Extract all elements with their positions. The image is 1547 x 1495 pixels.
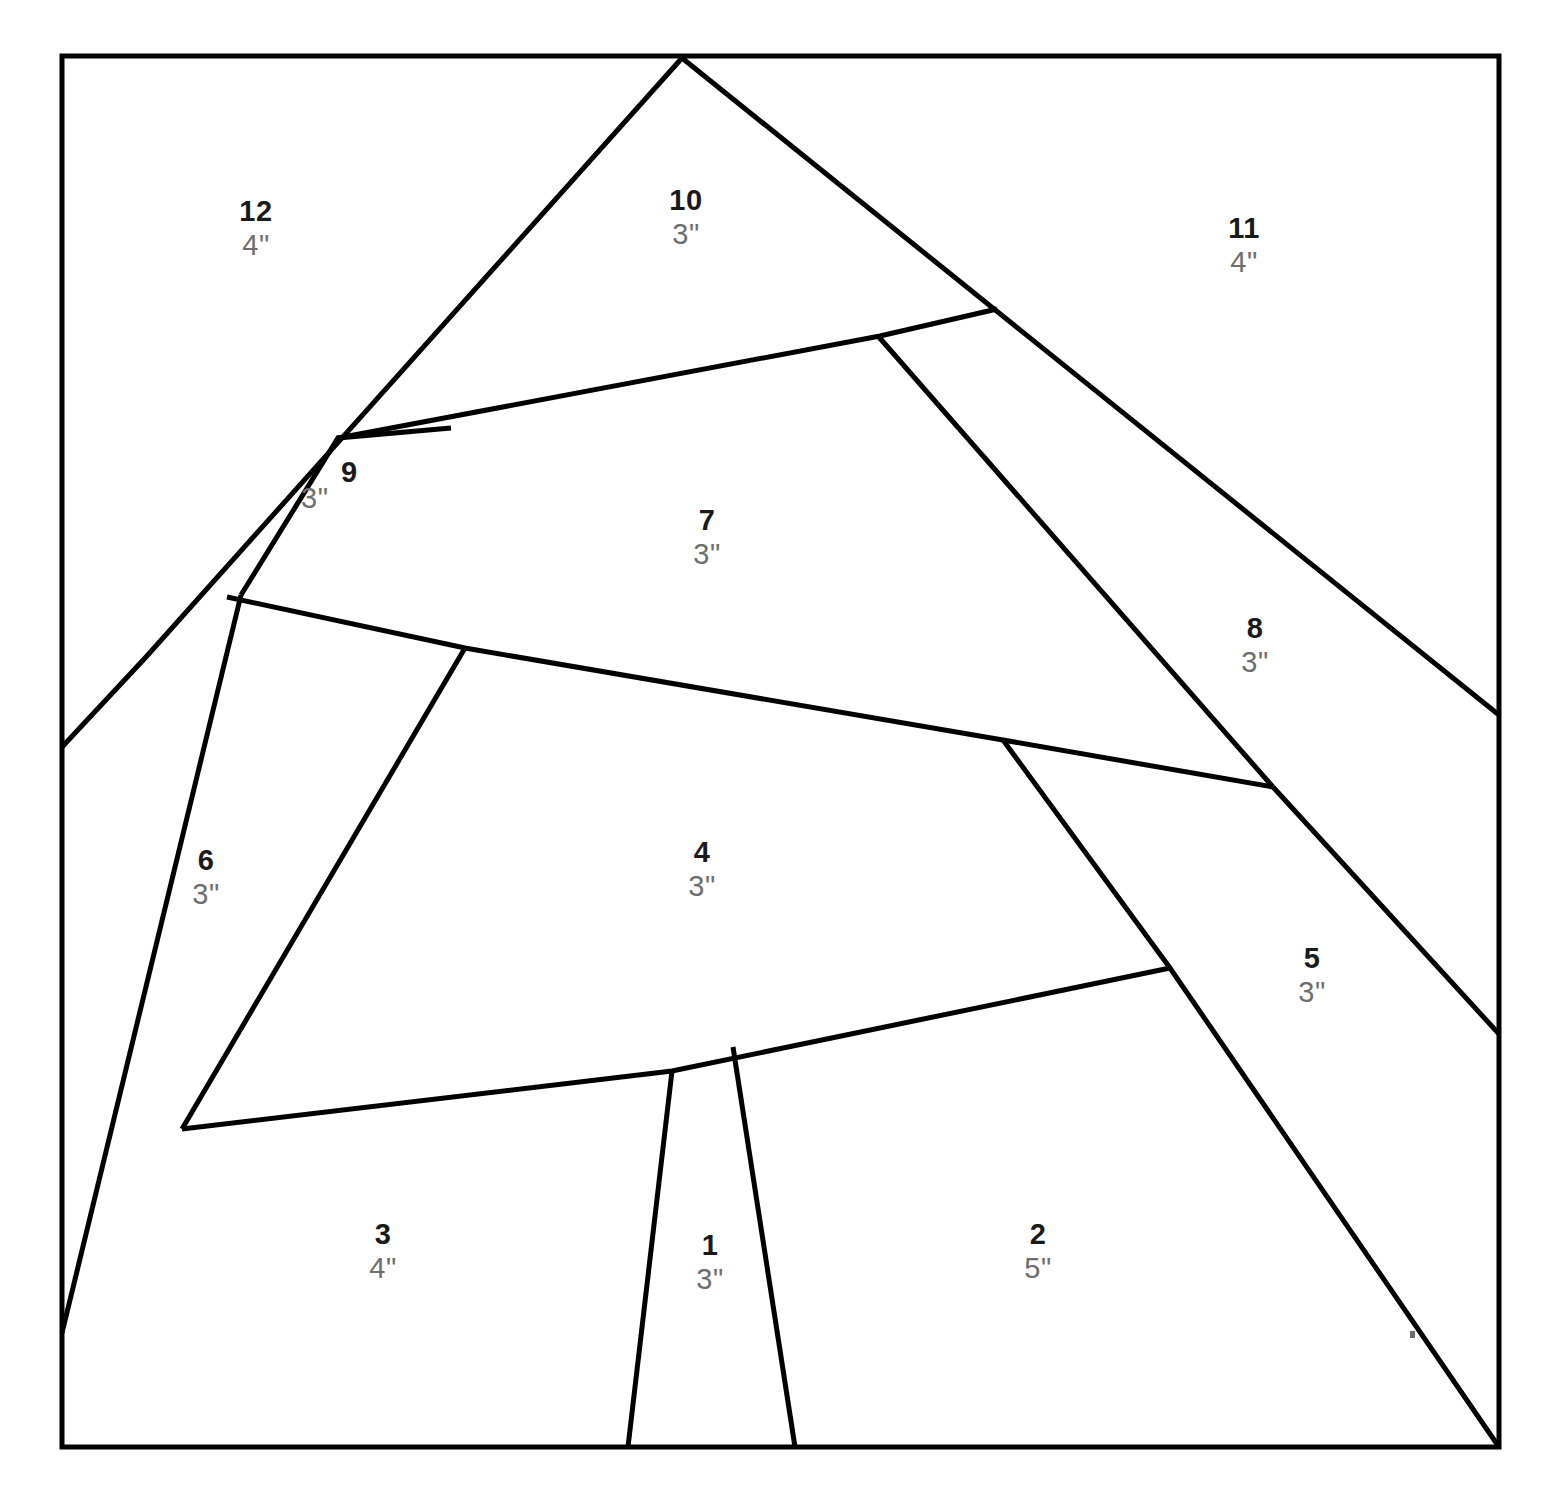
seam-8-5-divider — [1273, 787, 1499, 1034]
seam-6-outer-left — [62, 595, 241, 1333]
seam-7-4-boundary — [227, 597, 1273, 787]
seam-9-over-12 — [241, 428, 451, 595]
pattern-drawing — [0, 0, 1547, 1495]
seam-lines-group — [62, 58, 1499, 1447]
stray-speck — [1410, 1331, 1415, 1338]
seam-1-right — [733, 1047, 795, 1447]
artifact-group — [1410, 1331, 1415, 1338]
paper-piecing-pattern: 13"25"34"43"53"63"73"83"3"9103"114"124" — [0, 0, 1547, 1495]
apex-left-long-diagonal — [62, 58, 682, 747]
seam-3-4-boundary — [182, 968, 1170, 1129]
pattern-outer-frame — [62, 56, 1499, 1447]
seam-4-5-divider — [1003, 740, 1499, 1447]
pattern-frame-group — [62, 56, 1499, 1447]
seam-6-4-divider — [182, 648, 465, 1129]
seam-1-left — [628, 1071, 672, 1447]
seam-7-8-divider — [878, 336, 1273, 787]
apex-right-long-diagonal — [682, 58, 1499, 715]
